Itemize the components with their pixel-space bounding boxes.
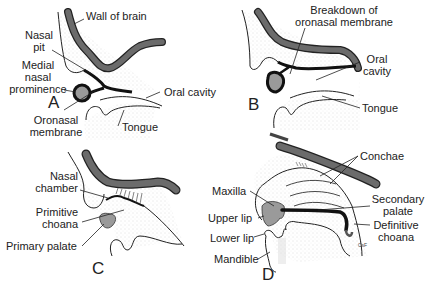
label-oronasal-membrane: Oronasal membrane xyxy=(28,114,84,138)
label-lower-lip: Lower lip xyxy=(210,232,254,244)
label-upper-lip: Upper lip xyxy=(208,212,252,224)
panel-b-medial-prominence xyxy=(267,72,283,92)
label-medial-line2: nasal xyxy=(6,71,70,83)
panel-d-illustration xyxy=(250,146,376,272)
label-wall-of-brain: Wall of brain xyxy=(86,10,147,22)
label-oral-cavity-b: Oral cavity xyxy=(362,53,392,77)
label-oronasal-line1: Oronasal xyxy=(28,114,84,126)
label-breakdown-oronasal: Breakdown of oronasal membrane xyxy=(294,4,394,28)
label-secondary-line1: Secondary xyxy=(370,193,426,205)
label-oral-line2: cavity xyxy=(362,65,392,77)
panel-letter-a: A xyxy=(48,94,59,111)
label-primitive-line2: choana xyxy=(24,218,78,230)
label-definitive-line2: choana xyxy=(370,231,422,243)
panel-b-tissue xyxy=(242,10,360,130)
label-maxilla: Maxilla xyxy=(212,185,246,197)
label-nasal-chamber: Nasal chamber xyxy=(24,170,78,194)
panel-letter-c: C xyxy=(92,260,104,277)
label-nasal-pit-line1: Nasal xyxy=(24,29,54,41)
panel-letter-b: B xyxy=(248,96,259,113)
label-mandible: Mandible xyxy=(214,253,259,265)
label-nasal-chamber-line2: chamber xyxy=(24,182,78,194)
panel-c-tissue xyxy=(68,152,182,250)
label-medial-line1: Medial xyxy=(6,59,70,71)
label-oral-cavity-a: Oral cavity xyxy=(164,86,216,98)
label-secondary-palate: Secondary palate xyxy=(370,193,426,217)
label-nasal-chamber-line1: Nasal xyxy=(24,170,78,182)
label-breakdown-line2: oronasal membrane xyxy=(294,16,394,28)
label-medial-nasal-prominence: Medial nasal prominence xyxy=(6,59,70,95)
illustrator-signature: CsF xyxy=(358,242,367,248)
label-nasal-pit-line2: pit xyxy=(24,41,54,53)
label-medial-line3: prominence xyxy=(6,83,70,95)
label-nasal-pit: Nasal pit xyxy=(24,29,54,53)
label-oral-line1: Oral xyxy=(362,53,392,65)
label-conchae: Conchae xyxy=(360,150,404,162)
label-primary-palate: Primary palate xyxy=(6,240,77,252)
label-primitive-line1: Primitive xyxy=(24,206,78,218)
panel-c-illustration xyxy=(68,152,184,256)
label-tongue-b: Tongue xyxy=(362,102,398,114)
panel-b-illustration xyxy=(242,10,360,140)
label-definitive-choana: Definitive choana xyxy=(370,219,422,243)
label-definitive-line1: Definitive xyxy=(370,219,422,231)
panel-letter-d: D xyxy=(262,266,274,283)
label-primitive-choana: Primitive choana xyxy=(24,206,78,230)
label-breakdown-line1: Breakdown of xyxy=(294,4,394,16)
label-oronasal-line2: membrane xyxy=(28,126,84,138)
label-tongue-a: Tongue xyxy=(122,121,158,133)
label-secondary-line2: palate xyxy=(370,205,426,217)
